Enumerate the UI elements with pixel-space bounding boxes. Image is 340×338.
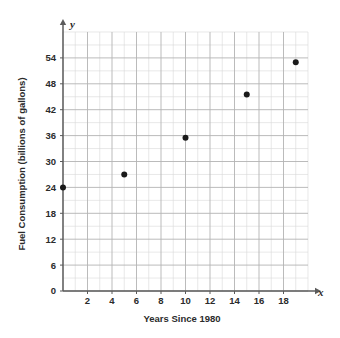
x-axis-tick-labels: 24681012141618 bbox=[85, 295, 289, 306]
x-tick-label: 4 bbox=[109, 295, 115, 306]
x-tick-label: 8 bbox=[158, 295, 163, 306]
y-tick-label: 18 bbox=[45, 208, 56, 219]
x-tick-label: 2 bbox=[85, 295, 90, 306]
scatter-plot-figure: 24681012141618 061218243036424854 x y Ye… bbox=[0, 0, 340, 338]
x-tick-label: 16 bbox=[254, 295, 265, 306]
data-point bbox=[244, 92, 250, 98]
x-tick-label: 18 bbox=[278, 295, 289, 306]
y-axis-title: Fuel Consumption (billions of gallons) bbox=[16, 77, 27, 250]
y-tick-label: 54 bbox=[45, 52, 56, 63]
axis-ticks bbox=[60, 58, 284, 294]
y-tick-label: 30 bbox=[45, 156, 56, 167]
y-tick-label: 36 bbox=[45, 130, 56, 141]
x-axis-title: Years Since 1980 bbox=[143, 313, 220, 324]
y-tick-label: 12 bbox=[45, 234, 56, 245]
data-point-series bbox=[60, 59, 299, 190]
y-tick-label: 48 bbox=[45, 78, 56, 89]
data-point bbox=[121, 171, 127, 177]
y-axis-tick-labels: 061218243036424854 bbox=[45, 52, 56, 296]
y-tick-label: 24 bbox=[45, 182, 56, 193]
x-tick-label: 14 bbox=[229, 295, 240, 306]
axis-lines bbox=[60, 19, 321, 294]
y-tick-label: 6 bbox=[51, 260, 56, 271]
data-point bbox=[60, 184, 66, 190]
data-point bbox=[293, 59, 299, 65]
chart-canvas: 24681012141618 061218243036424854 x y Ye… bbox=[0, 0, 340, 338]
x-axis-letter: x bbox=[317, 286, 324, 298]
y-axis-arrowhead bbox=[60, 19, 66, 25]
y-tick-label: 42 bbox=[45, 104, 56, 115]
x-tick-label: 6 bbox=[134, 295, 139, 306]
y-axis-letter: y bbox=[68, 18, 75, 30]
data-point bbox=[183, 135, 189, 141]
x-tick-label: 10 bbox=[180, 295, 191, 306]
x-tick-label: 12 bbox=[205, 295, 216, 306]
y-tick-label: 0 bbox=[51, 285, 56, 296]
